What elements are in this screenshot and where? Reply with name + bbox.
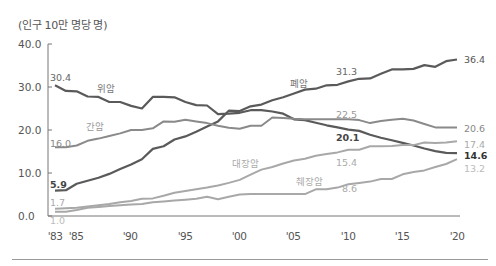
inline-label-lung: 폐암 <box>290 78 308 89</box>
label-lung-end: 36.4 <box>464 54 485 65</box>
value-labels: 30.416.05.91.71.031.322.520.115.48.636.4… <box>50 54 488 226</box>
label-lung-2010: 31.3 <box>336 66 357 77</box>
label-stomach-end: 14.6 <box>464 150 488 161</box>
line-chart-plot: 30.416.05.91.71.031.322.520.115.48.636.4… <box>0 0 496 266</box>
label-pancreatic-end: 13.2 <box>464 163 485 174</box>
label-colorectal-2010: 15.4 <box>336 157 357 168</box>
bottom-divider <box>12 259 488 260</box>
series-line-colorectal <box>55 141 457 209</box>
inline-label-liver: 간암 <box>86 121 104 132</box>
label-lung-start: 5.9 <box>50 179 67 190</box>
label-pancreatic-start: 1.0 <box>50 215 65 226</box>
label-colorectal-start: 1.7 <box>50 197 65 208</box>
inline-label-pancreatic: 췌장암 <box>296 176 323 187</box>
label-liver-2010: 22.5 <box>336 109 357 120</box>
label-colorectal-end: 17.4 <box>464 139 485 150</box>
label-stomach-start: 30.4 <box>50 72 71 83</box>
label-liver-start: 16.0 <box>50 138 71 149</box>
label-liver-end: 20.6 <box>464 123 485 134</box>
series-lines <box>55 60 457 212</box>
inline-label-colorectal: 대장암 <box>232 158 259 169</box>
series-line-liver <box>55 118 457 148</box>
label-stomach-2010: 20.1 <box>336 132 359 143</box>
inline-label-stomach: 위암 <box>97 83 115 94</box>
label-pancreatic-2010: 8.6 <box>342 183 357 194</box>
